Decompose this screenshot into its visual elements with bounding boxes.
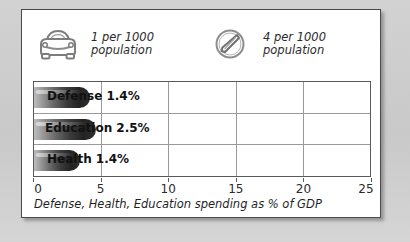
bar-label-health: Health 1.4% <box>47 152 129 166</box>
legend-item-telephone: 4 per 1000 population <box>208 24 326 64</box>
x-tick-label-10: 10 <box>161 182 176 196</box>
x-tick-label-25: 25 <box>358 182 373 196</box>
bar-chart: Defense 1.4% Education 2.5% Health 1.4% <box>33 81 371 177</box>
plot-area: Defense 1.4% Education 2.5% Health 1.4% <box>33 81 371 177</box>
legend-item-car: 1 per 1000 population <box>36 24 154 64</box>
bar-label-defense: Defense 1.4% <box>47 89 140 103</box>
bar-row-education: Education 2.5% <box>34 114 370 146</box>
x-tick-label-15: 15 <box>228 182 243 196</box>
bar-row-health: Health 1.4% <box>34 145 370 177</box>
x-axis: 0 5 10 15 20 25 <box>33 178 371 196</box>
x-tick-label-0: 0 <box>34 182 42 196</box>
chart-caption: Defense, Health, Education spending as %… <box>34 197 322 211</box>
infographic-page: 1 per 1000 population 4 per 1000 populat… <box>0 0 410 242</box>
bar-label-education: Education 2.5% <box>45 121 150 135</box>
infographic-card: 1 per 1000 population 4 per 1000 populat… <box>21 9 381 218</box>
car-icon <box>36 24 80 64</box>
legend: 1 per 1000 population 4 per 1000 populat… <box>22 18 380 70</box>
x-tick-label-20: 20 <box>296 182 311 196</box>
telephone-dial-icon <box>208 24 252 64</box>
legend-label-telephone: 4 per 1000 population <box>263 31 326 58</box>
bar-row-defense: Defense 1.4% <box>34 82 370 114</box>
legend-label-car: 1 per 1000 population <box>91 31 154 58</box>
x-tick-label-5: 5 <box>97 182 105 196</box>
